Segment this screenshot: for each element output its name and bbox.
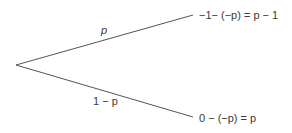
upper-branch-probability: p: [101, 24, 107, 36]
lower-branch-line: [16, 65, 193, 117]
lower-branch-outcome: 0 − (−p) = p: [199, 112, 256, 124]
lower-branch-probability: 1 − p: [93, 95, 118, 107]
upper-branch-outcome: −1− (−p) = p − 1: [199, 9, 278, 21]
upper-branch-line: [16, 15, 193, 65]
